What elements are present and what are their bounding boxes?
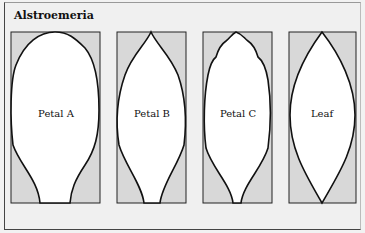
panel-petal-a: Petal A — [11, 32, 100, 203]
panel-petal-b: Petal B — [117, 32, 186, 203]
shape-diagram: Petal A Petal B Petal C Leaf — [0, 0, 365, 233]
label-petal-c: Petal C — [220, 108, 257, 119]
label-petal-b: Petal B — [134, 108, 170, 119]
panel-leaf: Leaf — [289, 32, 356, 203]
label-petal-a: Petal A — [38, 108, 75, 119]
label-leaf: Leaf — [311, 108, 335, 119]
panel-petal-c: Petal C — [203, 32, 272, 203]
